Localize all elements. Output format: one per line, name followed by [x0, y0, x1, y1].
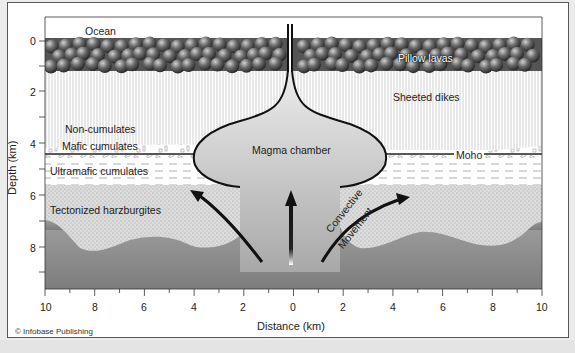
x-tick-0: 0	[290, 302, 296, 313]
y-axis-label: Depth (km)	[6, 141, 18, 195]
x-tick-2-left: 2	[240, 302, 246, 313]
label-ultramafic-cumulates: Ultramafic cumulates	[50, 166, 148, 177]
x-tick-6-right: 6	[440, 302, 446, 313]
x-tick-2-right: 2	[340, 302, 346, 313]
x-tick-4-left: 4	[191, 302, 197, 313]
x-tick-4-right: 4	[390, 302, 396, 313]
label-sheeted-dikes: Sheeted dikes	[393, 92, 460, 103]
label-pillow-lavas: Pillow lavas	[398, 53, 453, 64]
y-tick-4: 4	[30, 139, 36, 150]
label-ocean: Ocean	[85, 26, 116, 37]
x-tick-8-left: 8	[92, 302, 98, 313]
label-tectonized-harzburgites: Tectonized harzburgites	[50, 205, 161, 216]
x-axis-label: Distance (km)	[257, 320, 325, 332]
y-tick-2: 2	[30, 87, 36, 98]
upwelling-arrow	[289, 200, 293, 265]
y-tick-6: 6	[30, 191, 36, 202]
label-non-cumulates: Non-cumulates	[65, 124, 136, 135]
label-moho: Moho	[454, 150, 484, 161]
credit-text: © Infobase Publishing	[15, 327, 93, 336]
y-tick-0: 0	[30, 36, 36, 47]
x-tick-10-right: 10	[536, 302, 548, 313]
y-tick-8: 8	[30, 243, 36, 254]
label-magma-chamber: Magma chamber	[252, 145, 331, 156]
label-mafic-cumulates: Mafic cumulates	[62, 141, 138, 152]
x-tick-8-right: 8	[490, 302, 496, 313]
x-tick-6-left: 6	[141, 302, 147, 313]
x-tick-10-left: 10	[40, 302, 52, 313]
